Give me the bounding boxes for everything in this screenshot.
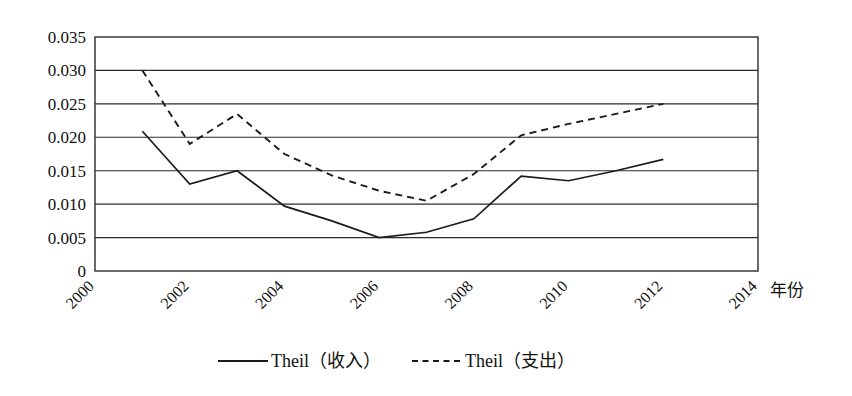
x-axis-tick-label: 2002 [157,277,192,312]
legend-label-theil-income: Theil（收入） [271,351,381,371]
legend-label-theil-expenditure: Theil（支出） [465,351,575,371]
series-line-theil-income [142,131,663,237]
legend: Theil（收入） Theil（支出） [218,351,575,371]
y-axis-tick-label: 0.015 [48,162,86,181]
gridlines-group [95,70,758,237]
x-axis-tick-label: 2014 [725,277,760,312]
y-axis-tick-label: 0.035 [48,28,86,47]
x-axis-tick-label: 2010 [536,277,571,312]
x-axis-tick-label: 2012 [631,277,666,312]
theil-line-chart: 00.0050.0100.0150.0200.0250.0300.035 200… [0,0,852,396]
x-axis-tick-label: 2006 [347,277,382,312]
y-axis-tick-label: 0.010 [48,195,86,214]
y-axis-tick-label: 0.005 [48,229,86,248]
y-axis-tick-label: 0.025 [48,95,86,114]
x-axis-title: 年份 [770,281,804,300]
series-line-theil-expenditure [142,70,663,200]
x-axis-tick-label: 2008 [441,277,476,312]
x-axis-tick-label: 2004 [252,277,287,312]
x-axis-tick-labels: 20002002200420062008201020122014 [62,277,760,312]
y-axis-tick-labels: 00.0050.0100.0150.0200.0250.0300.035 [48,28,86,281]
plot-frame [95,37,758,271]
y-axis-tick-label: 0.020 [48,128,86,147]
x-axis-tick-label: 2000 [62,277,97,312]
chart-figure: 00.0050.0100.0150.0200.0250.0300.035 200… [0,0,852,396]
y-axis-tick-label: 0.030 [48,61,86,80]
